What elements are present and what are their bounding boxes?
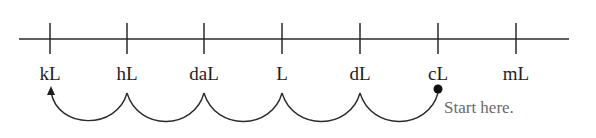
unit-label-hl: hL bbox=[116, 63, 137, 84]
unit-label-dl: dL bbox=[349, 63, 370, 84]
start-dot-icon bbox=[434, 85, 443, 94]
unit-label-ml: mL bbox=[503, 63, 529, 84]
arrowhead-icon bbox=[47, 86, 55, 95]
unit-label-dal: daL bbox=[189, 63, 219, 84]
unit-label-kl: kL bbox=[39, 63, 60, 84]
start-here-label: Start here. bbox=[444, 98, 514, 117]
arc-hl-to-kl bbox=[51, 92, 127, 121]
arc-dl-to-l bbox=[282, 93, 360, 122]
unit-label-l: L bbox=[276, 63, 288, 84]
arc-l-to-dal bbox=[204, 93, 282, 122]
arc-cl-to-dl bbox=[360, 93, 438, 122]
hop-arcs bbox=[51, 92, 438, 122]
metric-conversion-number-line: kLhLdaLLdLcLmL Start here. bbox=[0, 0, 596, 138]
unit-label-cl: cL bbox=[428, 63, 448, 84]
unit-labels: kLhLdaLLdLcLmL bbox=[39, 63, 529, 84]
arc-dal-to-hl bbox=[127, 93, 204, 122]
